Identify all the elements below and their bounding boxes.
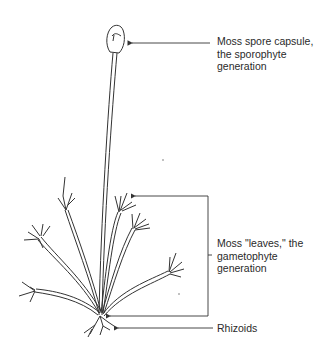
rhizoids-label: Rhizoids <box>217 322 257 335</box>
capsule-label-line-2: the sporophyte <box>217 48 286 60</box>
leaves-label-line-1: Moss "leaves," the <box>217 237 303 249</box>
leaves-label-line-2: gametophyte <box>217 250 278 262</box>
leaves-label-line-3: generation <box>217 262 267 274</box>
capsule-label-line-3: generation <box>217 60 267 72</box>
capsule-label-line-1: Moss spore capsule, <box>217 35 313 47</box>
leaves-label: Moss "leaves," the gametophyte generatio… <box>217 237 303 275</box>
label-pointers <box>110 43 213 328</box>
spore-capsule <box>107 25 125 53</box>
rhizoids <box>84 316 114 337</box>
rhizoids-label-line-1: Rhizoids <box>217 322 257 334</box>
capsule-label: Moss spore capsule, the sporophyte gener… <box>217 35 313 73</box>
